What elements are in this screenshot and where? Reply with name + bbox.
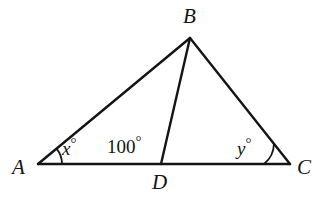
vertex-label-c: C [297,157,311,178]
geometry-figure: A B C D x° 100° y° [0,0,328,202]
angle-arc-c [264,144,274,164]
angle-label-y: y° [237,136,251,158]
angle-label-100: 100° [107,134,142,156]
degree-symbol: ° [136,133,142,149]
vertex-label-d: D [152,172,167,193]
angle-label-x: x° [62,136,76,158]
degree-symbol: ° [70,135,76,151]
vertex-label-b: B [183,6,196,27]
vertex-label-a: A [12,157,25,178]
degree-symbol: ° [245,135,251,151]
